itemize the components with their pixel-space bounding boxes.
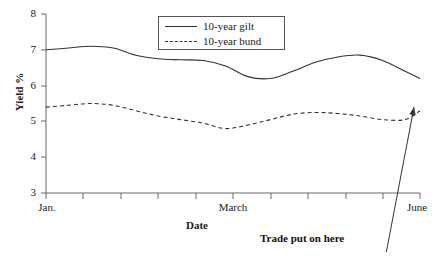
x-tick-label-jan: Jan. bbox=[30, 201, 64, 213]
legend-label-gilt: 10-year gilt bbox=[203, 20, 254, 32]
series-line-gilt bbox=[46, 46, 420, 79]
x-axis-ticks bbox=[46, 193, 420, 199]
y-axis-title: Yield % bbox=[13, 64, 25, 120]
legend-item-gilt[interactable]: 10-year gilt bbox=[163, 18, 254, 34]
x-tick-label-june: June bbox=[400, 201, 434, 213]
chart-legend[interactable]: 10-year gilt 10-year bund bbox=[158, 16, 285, 50]
x-tick-label-march: March bbox=[211, 201, 255, 213]
chart-container: 3 4 5 6 7 8 Jan. March June Yield % Date… bbox=[0, 0, 437, 260]
y-tick-label-3: 3 bbox=[22, 186, 36, 198]
y-tick-label-4: 4 bbox=[22, 150, 36, 162]
annotation-label: Trade put on here bbox=[260, 232, 344, 244]
annotation-arrow bbox=[386, 107, 415, 252]
legend-swatch-solid-line-icon bbox=[163, 21, 197, 31]
y-axis-ticks bbox=[41, 14, 46, 193]
legend-label-bund: 10-year bund bbox=[203, 35, 261, 47]
legend-item-bund[interactable]: 10-year bund bbox=[163, 33, 261, 49]
legend-swatch-dashed-line-icon bbox=[163, 36, 197, 46]
y-tick-label-7: 7 bbox=[22, 43, 36, 55]
x-axis-title: Date bbox=[186, 219, 208, 231]
y-tick-label-8: 8 bbox=[22, 7, 36, 19]
series-line-bund bbox=[46, 104, 420, 129]
